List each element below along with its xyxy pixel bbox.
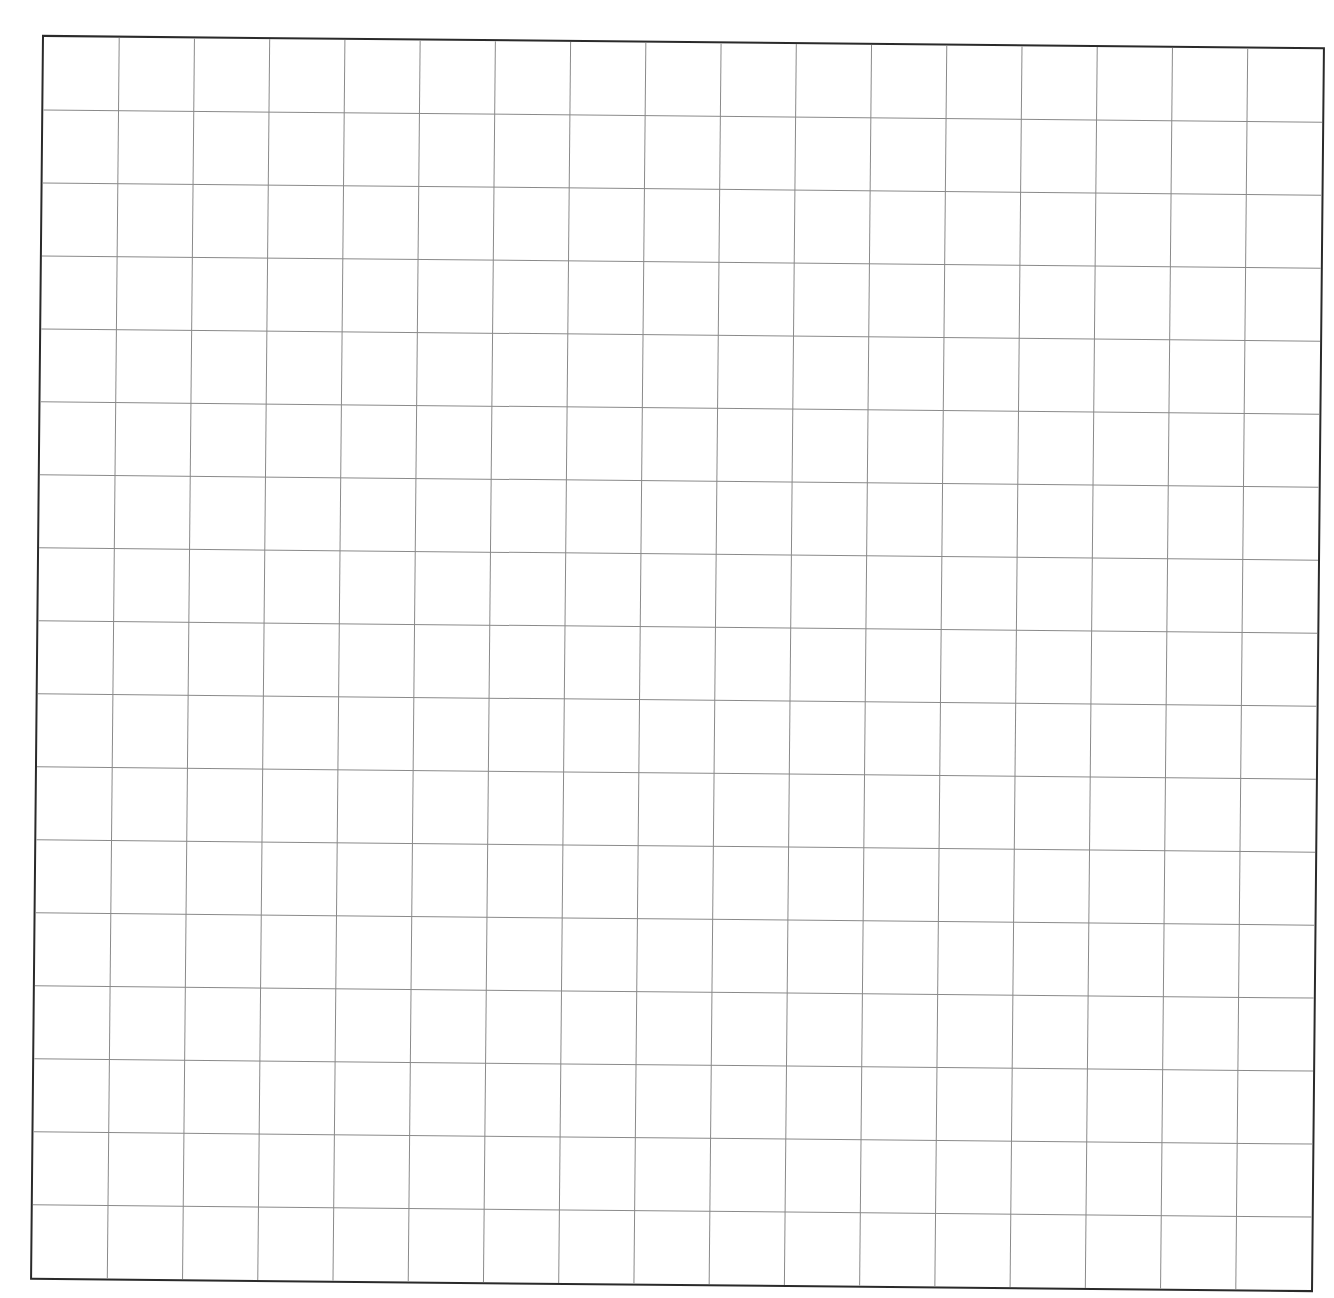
grid-line-vertical [183, 38, 195, 1279]
grid-lines [32, 37, 1323, 1290]
grid-line-vertical [860, 45, 872, 1286]
grid-line-vertical [258, 39, 270, 1280]
grid-line-horizontal [42, 256, 1321, 268]
grid-line-horizontal [43, 110, 1322, 122]
grid-line-vertical [483, 41, 495, 1282]
grid-line-horizontal [35, 986, 1314, 998]
grid-line-vertical [634, 43, 646, 1284]
grid-line-horizontal [34, 1059, 1313, 1071]
grid-line-vertical [1236, 48, 1248, 1289]
grid-line-horizontal [41, 329, 1320, 341]
grid-line-horizontal [36, 840, 1315, 852]
grid-line-horizontal [38, 694, 1317, 706]
grid-line-horizontal [43, 183, 1322, 195]
grid-line-vertical [935, 46, 947, 1287]
grid-line-vertical [1010, 46, 1022, 1287]
grid-line-horizontal [38, 621, 1317, 633]
grid-line-vertical [107, 38, 119, 1279]
grid-line-horizontal [33, 1205, 1312, 1217]
grid-line-horizontal [40, 402, 1319, 414]
grid-line-horizontal [40, 475, 1319, 487]
grid-line-horizontal [39, 548, 1318, 560]
grid-line-horizontal [37, 767, 1316, 779]
grid-line-vertical [1161, 48, 1173, 1289]
grid-line-vertical [709, 43, 721, 1284]
grid-line-vertical [333, 40, 345, 1281]
grid-line-vertical [408, 41, 420, 1282]
grid-line-horizontal [36, 913, 1315, 925]
grid-sheet [30, 35, 1325, 1292]
grid-line-vertical [559, 42, 571, 1283]
grid-line-horizontal [33, 1132, 1312, 1144]
grid-line-vertical [784, 44, 796, 1285]
grid-line-vertical [1085, 47, 1097, 1288]
